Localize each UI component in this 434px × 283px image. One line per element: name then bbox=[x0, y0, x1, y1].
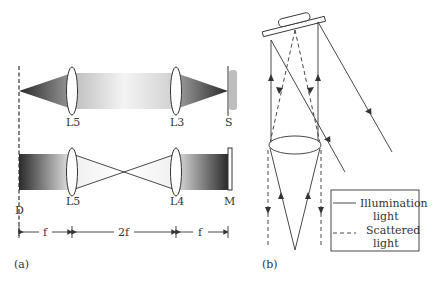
label-s: S bbox=[225, 116, 233, 129]
top-beam-path bbox=[19, 66, 237, 116]
lens-l4 bbox=[171, 148, 182, 196]
label-d: D bbox=[15, 204, 24, 217]
label-l5-top: L5 bbox=[66, 116, 80, 129]
label-l3: L3 bbox=[170, 116, 184, 129]
panel-a: L5 L3 S L5 L4 M D bbox=[14, 66, 237, 271]
label-m: M bbox=[224, 195, 235, 208]
lens-b bbox=[269, 136, 321, 154]
scatter-right bbox=[295, 30, 320, 143]
label-l5-bottom: L5 bbox=[66, 195, 80, 208]
legend-illumination-1: Illumination bbox=[360, 197, 428, 210]
scatter-left bbox=[270, 30, 295, 143]
label-l4: L4 bbox=[170, 195, 184, 208]
sample bbox=[229, 70, 237, 110]
legend-illumination-2: light bbox=[373, 210, 399, 223]
caption-b: (b) bbox=[262, 258, 278, 271]
illum-diag-right bbox=[318, 22, 392, 152]
diagram-canvas: L5 L3 S L5 L4 M D bbox=[0, 0, 434, 283]
dim-f-right: f bbox=[198, 226, 203, 239]
lens-l5-bottom bbox=[67, 148, 78, 196]
lens-l3 bbox=[171, 67, 182, 115]
legend-scattered-1: Scattered bbox=[366, 224, 420, 237]
legend-scattered-2: light bbox=[373, 237, 399, 250]
tilted-slide bbox=[260, 9, 325, 37]
dim-f-left: f bbox=[43, 226, 48, 239]
optical-diagram: L5 L3 S L5 L4 M D bbox=[0, 0, 434, 283]
dim-2f: 2f bbox=[118, 226, 130, 239]
caption-a: (a) bbox=[14, 258, 29, 271]
mirror bbox=[228, 148, 232, 190]
bottom-beam-path bbox=[19, 148, 232, 196]
lens-l5-top bbox=[67, 67, 78, 115]
